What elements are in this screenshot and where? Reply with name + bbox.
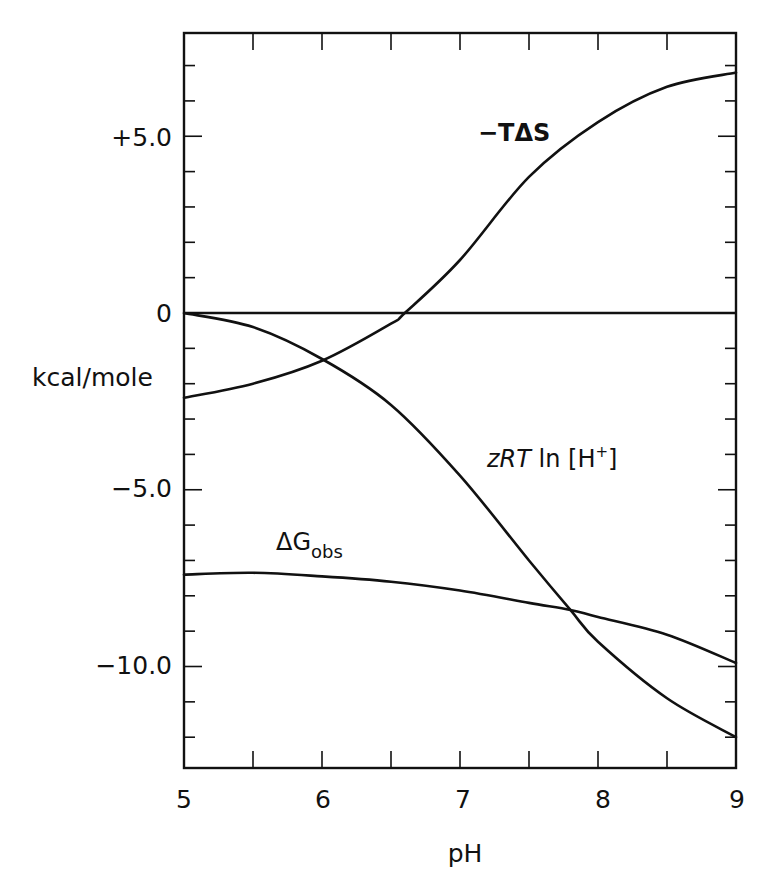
zrt-h: [H (568, 445, 595, 473)
thermodynamics-chart: +5.0 0 −5.0 −10.0 5 6 7 8 9 pH kcal/mole… (0, 0, 777, 882)
curve-dg-obs (184, 573, 736, 663)
data-curves (184, 73, 736, 738)
x-axis-title: pH (448, 839, 483, 868)
dg-main: ΔG (276, 528, 311, 556)
x-tick-label: 8 (595, 785, 611, 814)
zrt-plus: + (596, 443, 609, 461)
x-tick-label: 9 (729, 785, 745, 814)
dg-sub: obs (311, 541, 343, 562)
y-tick-label: 0 (156, 299, 172, 328)
y-tick-label: −5.0 (111, 474, 172, 503)
zrt-rt: RT (500, 445, 534, 473)
y-tick-label: +5.0 (111, 123, 172, 152)
curve-entropy (184, 73, 736, 398)
x-tick-label: 7 (455, 785, 471, 814)
y-axis-title: kcal/mole (32, 363, 153, 392)
curve-label-zrt: zRT ln [H+] (486, 443, 617, 473)
zrt-close: ] (608, 445, 617, 473)
x-tick-label: 5 (176, 785, 192, 814)
zrt-ln: ln (531, 445, 568, 473)
plot-frame (184, 33, 736, 768)
curve-label-dg-obs: ΔGobs (276, 528, 343, 562)
curve-zrt-ln-h (184, 313, 736, 737)
curve-label-entropy: −TΔS (478, 119, 550, 147)
y-tick-label: −10.0 (95, 651, 172, 680)
x-tick-label: 6 (315, 785, 331, 814)
axis-ticks (184, 33, 736, 768)
plot-border (184, 33, 736, 768)
